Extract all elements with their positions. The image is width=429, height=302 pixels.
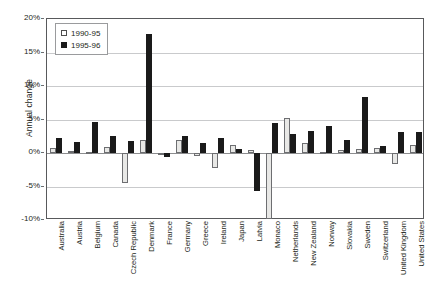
bar-series1 bbox=[392, 153, 398, 164]
bar-group bbox=[389, 19, 407, 218]
bar-group bbox=[137, 19, 155, 218]
y-tick-label: 10% bbox=[24, 81, 40, 89]
bar-series2 bbox=[182, 136, 188, 153]
y-axis-ticks: -10%-5%0%5%10%15%20% bbox=[0, 0, 44, 225]
y-tick-label: 0% bbox=[28, 148, 40, 156]
bar-series2 bbox=[416, 132, 422, 153]
bar-group bbox=[173, 19, 191, 218]
bar-group bbox=[407, 19, 425, 218]
x-tick-label: Switzerland bbox=[382, 221, 390, 260]
legend: 1990-951995-96 bbox=[55, 23, 108, 55]
bar-group bbox=[281, 19, 299, 218]
y-tick-mark bbox=[41, 152, 44, 153]
x-tick-label: Latvia bbox=[256, 221, 264, 241]
bar-series2 bbox=[74, 142, 80, 153]
x-tick-label: United Kingdom bbox=[400, 221, 408, 275]
bar-group bbox=[335, 19, 353, 218]
x-tick-label: Belgium bbox=[94, 221, 102, 248]
x-tick-label: Norway bbox=[328, 221, 336, 247]
bar-series1 bbox=[212, 153, 218, 168]
y-tick-label: 5% bbox=[28, 115, 40, 123]
x-tick-label: Czech Republic bbox=[130, 221, 138, 274]
bar-chart: Annual change -10%-5%0%5%10%15%20% 1990-… bbox=[0, 0, 429, 302]
y-tick-label: -5% bbox=[26, 182, 40, 190]
x-tick-label: Monaco bbox=[274, 221, 282, 248]
y-tick-label: 15% bbox=[24, 48, 40, 56]
bar-group bbox=[353, 19, 371, 218]
bar-series2 bbox=[254, 153, 260, 191]
bar-series1 bbox=[122, 153, 128, 183]
y-tick-mark bbox=[41, 119, 44, 120]
x-tick-label: Slovakia bbox=[346, 221, 354, 250]
x-axis-labels: AustraliaAustriaBelgiumCanadaCzech Repub… bbox=[46, 221, 424, 302]
bar-series1 bbox=[266, 153, 272, 219]
x-tick-label: Sweden bbox=[364, 221, 372, 248]
bar-series2 bbox=[164, 153, 170, 157]
bar-group bbox=[263, 19, 281, 218]
x-tick-label: Denmark bbox=[148, 221, 156, 252]
bar-series1 bbox=[194, 153, 200, 156]
x-tick-label: Canada bbox=[112, 221, 120, 248]
bar-group bbox=[209, 19, 227, 218]
legend-swatch-icon bbox=[61, 42, 67, 48]
bar-group bbox=[299, 19, 317, 218]
y-tick-mark bbox=[41, 186, 44, 187]
x-tick-label: Ireland bbox=[220, 221, 228, 244]
y-tick-mark bbox=[41, 219, 44, 220]
bar-series2 bbox=[128, 141, 134, 153]
bar-series2 bbox=[398, 132, 404, 153]
x-tick-label: Germany bbox=[184, 221, 192, 252]
bar-group bbox=[317, 19, 335, 218]
bar-series2 bbox=[290, 134, 296, 153]
bar-group bbox=[155, 19, 173, 218]
y-tick-mark bbox=[41, 85, 44, 86]
bar-group bbox=[227, 19, 245, 218]
bar-series2 bbox=[200, 143, 206, 153]
bar-series2 bbox=[272, 123, 278, 153]
legend-item: 1995-96 bbox=[61, 39, 100, 51]
bar-group bbox=[191, 19, 209, 218]
bar-series2 bbox=[344, 140, 350, 153]
legend-label: 1990-95 bbox=[71, 29, 100, 38]
bar-series2 bbox=[110, 136, 116, 153]
bar-series2 bbox=[56, 138, 62, 153]
legend-item: 1990-95 bbox=[61, 27, 100, 39]
bar-series2 bbox=[380, 146, 386, 153]
y-tick-label: 20% bbox=[24, 14, 40, 22]
y-tick-mark bbox=[41, 52, 44, 53]
x-tick-label: Netherlands bbox=[292, 221, 300, 262]
x-tick-label: France bbox=[166, 221, 174, 245]
bar-group bbox=[371, 19, 389, 218]
bar-series2 bbox=[236, 149, 242, 153]
x-tick-label: United States bbox=[418, 221, 426, 267]
x-tick-label: Greece bbox=[202, 221, 210, 246]
bar-series2 bbox=[146, 34, 152, 153]
x-tick-label: Japan bbox=[238, 221, 246, 242]
x-tick-label: Australia bbox=[58, 221, 66, 251]
bar-series2 bbox=[362, 97, 368, 153]
bar-series2 bbox=[218, 138, 224, 153]
x-tick-label: New Zealand bbox=[310, 221, 318, 266]
bar-group bbox=[245, 19, 263, 218]
bar-group bbox=[119, 19, 137, 218]
y-tick-label: -10% bbox=[21, 215, 40, 223]
x-tick-label: Austria bbox=[76, 221, 84, 245]
legend-swatch-icon bbox=[61, 30, 67, 36]
bar-series2 bbox=[92, 122, 98, 153]
y-tick-mark bbox=[41, 18, 44, 19]
legend-label: 1995-96 bbox=[71, 41, 100, 50]
bar-series2 bbox=[308, 131, 314, 153]
bar-series2 bbox=[326, 126, 332, 153]
